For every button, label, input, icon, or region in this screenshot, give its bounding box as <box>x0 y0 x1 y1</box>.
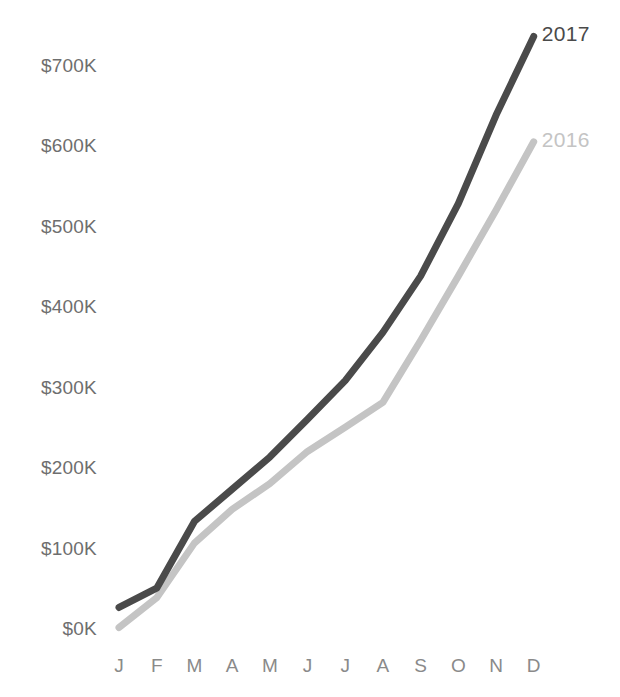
series-line-2016 <box>119 142 534 628</box>
line-chart: $700K$600K$500K$400K$300K$200K$100K$0K J… <box>0 0 620 697</box>
series-label-2017: 2017 <box>542 22 590 46</box>
series-line-2017 <box>119 36 534 607</box>
series-label-2016: 2016 <box>542 128 590 152</box>
plot-area <box>0 0 620 697</box>
